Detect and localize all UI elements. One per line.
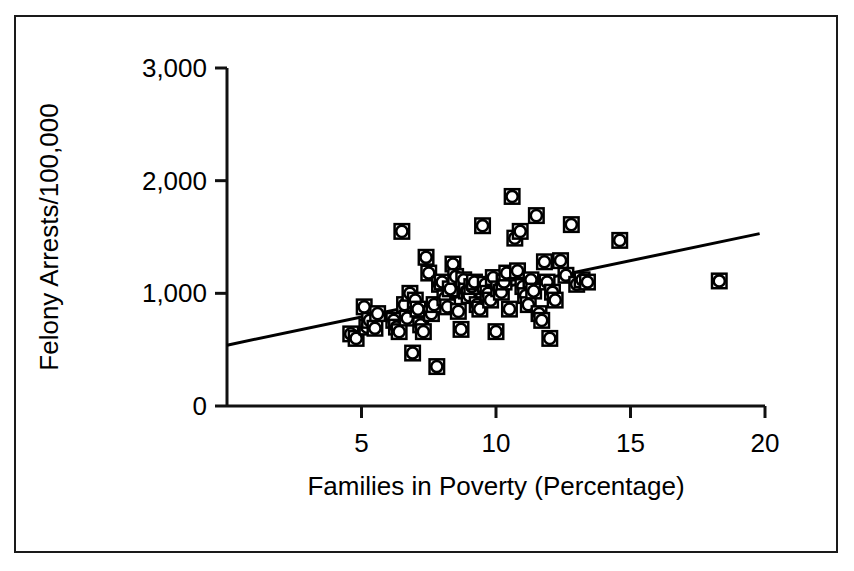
y-axis-title: Felony Arrests/100,000 bbox=[34, 103, 64, 370]
data-point bbox=[488, 323, 505, 340]
data-point bbox=[711, 272, 728, 289]
y-axis-ticks bbox=[215, 68, 227, 406]
axes bbox=[227, 68, 765, 406]
data-point bbox=[501, 301, 518, 318]
scatter-plot: 01,0002,0003,000 5101520 Families in Pov… bbox=[0, 0, 854, 571]
x-tick-label: 20 bbox=[751, 428, 780, 458]
data-point bbox=[547, 292, 564, 309]
y-tick-label: 3,000 bbox=[142, 53, 207, 83]
data-point bbox=[418, 249, 435, 266]
data-point bbox=[533, 312, 550, 329]
data-point bbox=[474, 217, 491, 234]
figure-container: 01,0002,0003,000 5101520 Families in Pov… bbox=[0, 0, 854, 571]
data-point bbox=[504, 188, 521, 205]
y-tick-label: 2,000 bbox=[142, 166, 207, 196]
y-tick-label: 0 bbox=[193, 391, 207, 421]
data-point bbox=[528, 207, 545, 224]
data-point bbox=[512, 223, 529, 240]
x-tick-label: 10 bbox=[482, 428, 511, 458]
data-point bbox=[428, 358, 445, 375]
x-axis-title: Families in Poverty (Percentage) bbox=[307, 471, 684, 501]
data-point bbox=[453, 321, 470, 338]
data-point bbox=[404, 345, 421, 362]
y-axis-tick-labels: 01,0002,0003,000 bbox=[142, 53, 207, 421]
data-point bbox=[415, 323, 432, 340]
data-point bbox=[611, 232, 628, 249]
data-point bbox=[541, 330, 558, 347]
x-tick-label: 5 bbox=[354, 428, 368, 458]
data-point bbox=[552, 252, 569, 269]
x-axis-ticks bbox=[362, 406, 766, 418]
y-tick-label: 1,000 bbox=[142, 278, 207, 308]
data-point bbox=[579, 274, 596, 291]
data-point bbox=[536, 253, 553, 270]
data-points bbox=[342, 188, 728, 375]
data-point bbox=[366, 320, 383, 337]
data-point bbox=[563, 216, 580, 233]
data-point bbox=[393, 223, 410, 240]
x-tick-label: 15 bbox=[616, 428, 645, 458]
x-axis-tick-labels: 5101520 bbox=[354, 428, 779, 458]
data-point bbox=[450, 303, 467, 320]
data-point bbox=[369, 305, 386, 322]
